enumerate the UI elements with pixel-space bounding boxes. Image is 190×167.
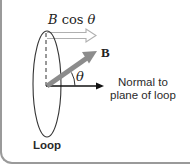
angle-label: θ [76,70,84,83]
field-arrow [47,51,97,86]
normal-label-line2: plane of loop [110,89,176,102]
component-label-theta: θ [88,12,96,27]
component-label-b: B [48,12,58,27]
component-label-cos: cos [58,12,88,27]
loop-label: Loop [33,140,61,152]
angle-arc [72,73,76,87]
normal-label-line1: Normal to [110,76,176,89]
component-label: B cos θ [48,13,95,26]
field-label: B [101,46,110,59]
normal-label: Normal to plane of loop [110,76,176,102]
